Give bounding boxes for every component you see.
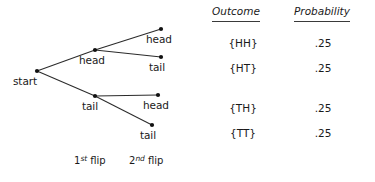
edge-start-tail [37,71,95,96]
cell-outcome: {HT} [207,63,279,74]
column-header-probability: Probability [294,6,350,22]
stage-2-suffix: nd [135,154,144,163]
edge-head-tail [95,50,161,57]
cell-probability: .25 [287,38,359,49]
edge-tail-head [95,95,158,96]
table-row: {TH} .25 [207,103,372,117]
stage-1-suffix: st [80,154,87,163]
cell-outcome: {TH} [207,103,279,114]
node-label-tail-head: head [143,100,169,111]
cell-probability: .25 [287,103,359,114]
node-label-head-tail: tail [149,62,165,73]
table-row: {HT} .25 [207,63,372,77]
table-row: {TT} .25 [207,128,372,142]
node-start [35,69,39,73]
cell-outcome: {HH} [207,38,279,49]
cell-probability: .25 [287,63,359,74]
node-tail-head [156,93,160,97]
probability-tree-figure: start head tail head tail head tail 1st … [0,0,375,182]
stage-2-word: flip [148,155,163,166]
node-tail-tail [150,123,154,127]
node-head-level1 [93,48,97,52]
cell-probability: .25 [287,128,359,139]
stage-label-first-flip: 1st flip [74,155,106,166]
node-label-head-level1: head [79,55,105,66]
cell-outcome: {TT} [207,128,279,139]
table-row: {HH} .25 [207,38,372,52]
node-tail-level1 [93,94,97,98]
node-head-head [159,27,163,31]
column-header-outcome: Outcome [212,6,260,22]
node-label-start: start [13,76,37,87]
node-label-head-head: head [146,34,172,45]
outcome-probability-table: Outcome Probability {HH} .25 {HT} .25 {T… [207,6,372,28]
stage-1-word: flip [90,155,105,166]
node-head-tail [159,55,163,59]
stage-label-second-flip: 2nd flip [129,155,163,166]
node-label-tail-level1: tail [82,101,98,112]
node-label-tail-tail: tail [140,130,156,141]
table-header-row: Outcome Probability [207,6,372,28]
